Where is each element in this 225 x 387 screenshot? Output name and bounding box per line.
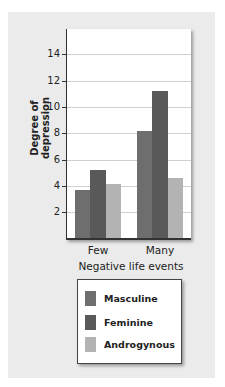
y-tick — [62, 186, 67, 187]
bar-feminine-few — [90, 170, 105, 238]
y-tick-label: 10 — [40, 101, 60, 112]
y-tick — [62, 54, 67, 55]
bar-androgynous-few — [106, 184, 121, 238]
plot-area — [66, 29, 191, 240]
gridline — [67, 133, 191, 134]
bar-masculine-few — [75, 190, 90, 238]
legend-label: Masculine — [104, 293, 158, 304]
legend-item-androgynous: Androgynous — [85, 337, 175, 351]
gridline — [67, 81, 191, 82]
y-tick-label: 12 — [40, 75, 60, 86]
bar-androgynous-many — [168, 178, 183, 238]
y-tick — [62, 133, 67, 134]
gridline — [67, 160, 191, 161]
x-axis-title: Negative life events — [56, 260, 206, 272]
x-category-few: Few — [73, 244, 123, 256]
gridline — [67, 107, 191, 108]
legend-swatch — [85, 337, 96, 352]
legend-label: Feminine — [104, 317, 153, 328]
y-tick — [62, 160, 67, 161]
y-tick-label: 8 — [40, 127, 60, 138]
legend-item-masculine: Masculine — [85, 291, 158, 305]
y-tick — [62, 81, 67, 82]
legend-swatch — [85, 315, 96, 330]
y-tick — [62, 107, 67, 108]
legend: Masculine Feminine Androgynous — [77, 279, 182, 364]
bar-feminine-many — [152, 91, 167, 238]
y-tick-label: 14 — [40, 48, 60, 59]
bar-masculine-many — [137, 131, 152, 238]
legend-swatch — [85, 291, 96, 306]
y-tick-label: 2 — [40, 206, 60, 217]
gridline — [67, 54, 191, 55]
legend-item-feminine: Feminine — [85, 315, 153, 329]
y-tick-label: 4 — [40, 180, 60, 191]
x-category-many: Many — [135, 244, 185, 256]
y-tick-label: 6 — [40, 154, 60, 165]
legend-label: Androgynous — [104, 339, 175, 350]
y-tick — [62, 212, 67, 213]
